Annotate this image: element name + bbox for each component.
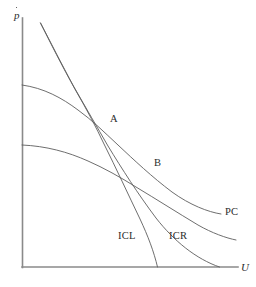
point-label-a: A xyxy=(110,114,118,125)
curve-pc-lower xyxy=(22,145,236,240)
curve-label-icr: ICR xyxy=(169,231,187,242)
curve-label-icl: ICL xyxy=(118,231,136,242)
curve-icl xyxy=(41,23,158,267)
point-label-b: B xyxy=(154,158,161,169)
y-axis-label-text: p xyxy=(14,10,20,21)
p-dot-glyph: p xyxy=(14,10,20,21)
x-axis-label: U xyxy=(241,262,249,273)
phillips-curve-figure: p U A B PC ICL ICR xyxy=(0,0,256,287)
figure-canvas xyxy=(0,0,256,287)
dot-accent-icon xyxy=(16,7,18,9)
y-axis-label: p xyxy=(14,10,20,21)
curve-pc-upper xyxy=(22,85,221,214)
curve-label-pc: PC xyxy=(225,207,238,218)
